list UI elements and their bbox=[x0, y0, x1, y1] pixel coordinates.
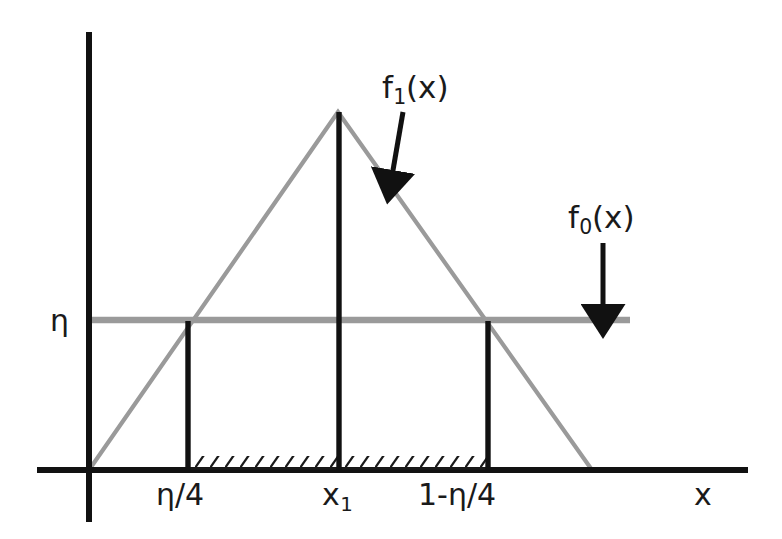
x-tick-label-one-minus-eta-over-4: 1-η/4 bbox=[418, 480, 496, 510]
annotation-label-f0-subscript: 0 bbox=[579, 215, 592, 239]
x-tick-label-x1-base: x bbox=[322, 477, 340, 512]
x-axis-name-label: x bbox=[694, 480, 712, 510]
annotation-label-f1: f1(x) bbox=[382, 72, 448, 103]
y-axis-level-label-eta: η bbox=[50, 306, 69, 336]
x-tick-label-eta-over-4: η/4 bbox=[156, 480, 204, 510]
annotation-label-f0-tail: (x) bbox=[592, 199, 635, 235]
figure-canvas: η η/4 x1 1-η/4 x f1(x) f0(x) bbox=[0, 0, 782, 539]
x-tick-label-x1-subscript: 1 bbox=[340, 493, 353, 516]
annotation-label-f0-base: f bbox=[568, 199, 579, 235]
annotation-label-f0: f0(x) bbox=[568, 202, 634, 233]
x-tick-label-x1: x1 bbox=[322, 480, 352, 510]
annotation-label-f1-tail: (x) bbox=[406, 69, 449, 105]
annotation-label-f1-base: f bbox=[382, 69, 393, 105]
annotation-label-f1-subscript: 1 bbox=[393, 85, 406, 109]
annotation-arrow-f1 bbox=[392, 112, 403, 176]
